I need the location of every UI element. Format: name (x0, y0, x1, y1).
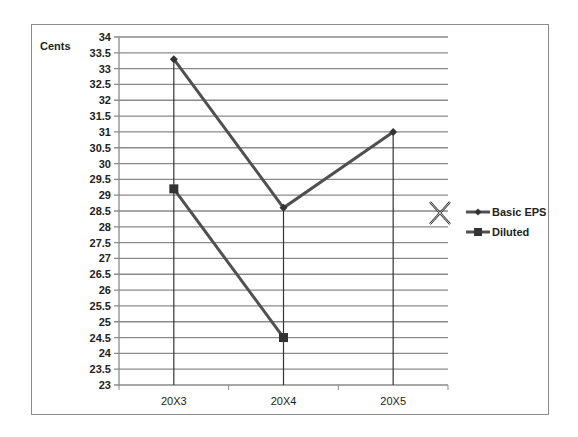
y-tick-label: 34 (99, 31, 112, 43)
y-tick-label: 32 (99, 94, 111, 106)
series-diluted (169, 184, 288, 342)
square-marker (169, 184, 178, 193)
y-tick-label: 24 (99, 347, 112, 359)
legend-item-basic-eps[interactable]: Basic EPS (466, 206, 546, 218)
y-tick-label: 26 (99, 284, 111, 296)
y-tick-label: 31 (99, 126, 111, 138)
y-axis-label: Cents (40, 40, 71, 52)
y-tick-label: 30.5 (90, 142, 111, 154)
y-tick-label: 28 (99, 221, 111, 233)
legend[interactable]: Basic EPSDiluted (466, 206, 546, 238)
square-marker (474, 228, 482, 236)
y-tick-label: 26.5 (90, 268, 111, 280)
y-tick-label: 30 (99, 158, 111, 170)
y-tick-label: 27 (99, 252, 111, 264)
x-tick-label: 20X3 (161, 395, 187, 407)
y-tick-label: 31.5 (90, 110, 111, 122)
move-cursor-icon (430, 202, 450, 224)
y-tick-label: 33.5 (90, 47, 111, 59)
y-tick-label: 25 (99, 316, 111, 328)
x-axis-ticks: 20X320X420X5 (119, 385, 448, 407)
y-tick-label: 23 (99, 379, 111, 391)
y-tick-label: 23.5 (90, 363, 111, 375)
y-tick-label: 32.5 (90, 78, 111, 90)
diamond-marker (475, 209, 482, 216)
line-chart: Cents 2323.52424.52525.52626.52727.52828… (0, 0, 578, 437)
legend-item-diluted[interactable]: Diluted (466, 226, 529, 238)
y-tick-label: 29.5 (90, 173, 111, 185)
legend-label: Diluted (492, 226, 529, 238)
series-line (174, 59, 393, 208)
y-tick-label: 33 (99, 63, 111, 75)
series-basic-eps (170, 55, 397, 212)
square-marker (279, 333, 288, 342)
y-tick-label: 27.5 (90, 237, 111, 249)
y-tick-label: 25.5 (90, 300, 111, 312)
y-axis-ticks: 2323.52424.52525.52626.52727.52828.52929… (90, 31, 112, 391)
y-tick-label: 29 (99, 189, 111, 201)
x-tick-label: 20X4 (271, 395, 297, 407)
x-tick-label: 20X5 (380, 395, 406, 407)
y-tick-label: 24.5 (90, 332, 111, 344)
y-tick-label: 28.5 (90, 205, 111, 217)
legend-label: Basic EPS (492, 206, 546, 218)
